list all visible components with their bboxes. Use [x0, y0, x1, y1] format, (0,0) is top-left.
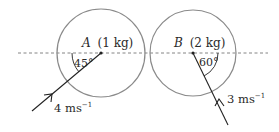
sphere-b-angle-label: 60° [199, 56, 219, 69]
sphere-a-angle-label: 45° [74, 57, 94, 70]
sphere-a: 45° A (1 kg) 4 ms−1 [32, 9, 145, 115]
sphere-a-label: A (1 kg) [81, 36, 133, 50]
sphere-b-speed-label: 3 ms−1 [227, 92, 265, 106]
sphere-b-label: B (2 kg) [173, 36, 225, 50]
sphere-a-speed-label: 4 ms−1 [54, 101, 92, 115]
sphere-b: 60° B (2 kg) 3 ms−1 [150, 10, 265, 125]
collision-diagram: 45° A (1 kg) 4 ms−1 60° B (2 kg) 3 ms−1 [0, 0, 279, 132]
